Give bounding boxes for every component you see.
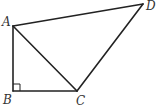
geometry-diagram: A B C D	[0, 0, 163, 108]
segment-ad	[13, 4, 143, 26]
label-c: C	[76, 94, 85, 108]
label-b: B	[2, 93, 12, 107]
label-a: A	[1, 15, 11, 29]
segment-cd	[77, 4, 143, 91]
label-d: D	[145, 0, 156, 13]
right-angle-marker	[13, 84, 20, 91]
segment-ac	[13, 26, 77, 91]
